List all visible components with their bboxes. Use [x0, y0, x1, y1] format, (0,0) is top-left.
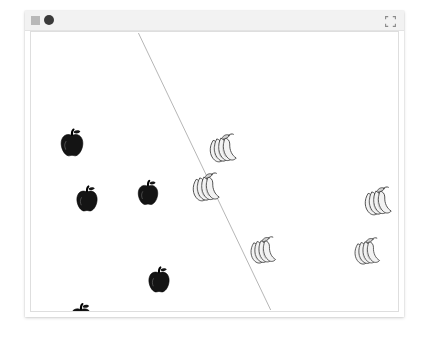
window-titlebar[interactable]	[25, 11, 404, 31]
window-menu-icon[interactable]	[31, 16, 40, 25]
application-window	[25, 11, 404, 317]
apple-point	[145, 266, 173, 294]
banana-point	[351, 235, 385, 269]
apple-point	[67, 303, 96, 313]
record-dot-icon[interactable]	[44, 15, 54, 25]
app-root	[0, 0, 428, 338]
apple-point	[73, 185, 101, 213]
banana-point	[361, 184, 397, 220]
banana-point	[206, 131, 242, 167]
apple-point	[57, 128, 87, 158]
apple-point	[135, 180, 162, 207]
titlebar-left-icons	[31, 15, 54, 25]
plot-canvas	[30, 31, 399, 312]
banana-point	[189, 170, 225, 206]
expand-fullscreen-icon[interactable]	[385, 16, 396, 27]
banana-point	[247, 234, 281, 268]
